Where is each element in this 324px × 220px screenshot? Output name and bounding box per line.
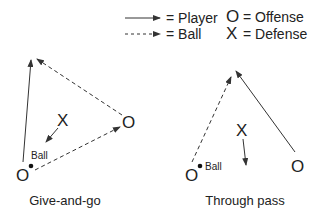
offense-player-1: O bbox=[16, 166, 29, 185]
legend-ball-label: = Ball bbox=[166, 26, 201, 42]
legend-offense-label: = Offense bbox=[243, 9, 304, 25]
defense-player: X bbox=[57, 111, 68, 130]
diagram-svg: = Player = Ball O = Offense X = Defense … bbox=[0, 0, 324, 220]
diagram-caption: Give-and-go bbox=[29, 193, 101, 208]
ball-return-pass-arrow-icon bbox=[37, 59, 122, 115]
ball-pass-arrow-icon bbox=[192, 77, 231, 162]
ball-pass-arrow-icon bbox=[35, 127, 120, 170]
ball-icon bbox=[198, 164, 203, 169]
legend-defense-label: = Defense bbox=[243, 26, 307, 42]
offense-player-2: O bbox=[122, 113, 135, 132]
offense-player-2: O bbox=[291, 157, 304, 176]
ball-icon bbox=[29, 164, 34, 169]
defender-move-arrow-icon bbox=[46, 128, 58, 142]
ball-label: Ball bbox=[205, 161, 222, 172]
give-and-go-diagram: O O X Ball Give-and-go bbox=[16, 59, 135, 208]
defender-move-arrow-icon bbox=[243, 139, 246, 165]
play-diagram-figure: = Player = Ball O = Offense X = Defense … bbox=[0, 0, 324, 220]
player-run-arrow-icon bbox=[23, 60, 31, 162]
ball-label: Ball bbox=[31, 150, 48, 161]
through-pass-diagram: O O X Ball Through pass bbox=[185, 71, 304, 208]
legend-player-label: = Player bbox=[166, 10, 218, 26]
defense-player: X bbox=[236, 121, 247, 140]
offense-player-1: O bbox=[185, 166, 198, 185]
diagram-caption: Through pass bbox=[205, 193, 285, 208]
legend: = Player = Ball O = Offense X = Defense bbox=[125, 7, 307, 43]
legend-defense-symbol: X bbox=[226, 24, 237, 43]
